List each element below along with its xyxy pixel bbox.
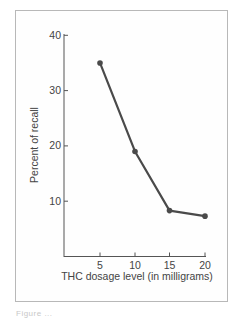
y-axis-ticks: 10203040 <box>49 29 68 207</box>
y-tick-label: 10 <box>49 195 61 207</box>
data-point <box>202 213 208 219</box>
data-point <box>97 60 103 66</box>
line-chart: 10203040 5101520 Percent of recall THC d… <box>0 0 240 318</box>
axes <box>64 34 206 257</box>
y-axis-label: Percent of recall <box>28 107 40 183</box>
figure-caption: Figure ... <box>16 309 53 318</box>
data-point <box>132 149 138 155</box>
x-tick-label: 15 <box>164 259 176 271</box>
y-tick-label: 40 <box>49 29 61 41</box>
x-tick-label: 10 <box>129 259 141 271</box>
y-tick-label: 30 <box>49 84 61 96</box>
y-tick-label: 20 <box>49 139 61 151</box>
x-tick-label: 5 <box>97 259 103 271</box>
x-axis-label: THC dosage level (in milligrams) <box>61 270 213 282</box>
data-point <box>167 208 173 214</box>
x-axis-ticks: 5101520 <box>97 253 211 271</box>
data-series <box>97 60 208 219</box>
x-tick-label: 20 <box>199 259 211 271</box>
data-line <box>100 63 205 216</box>
